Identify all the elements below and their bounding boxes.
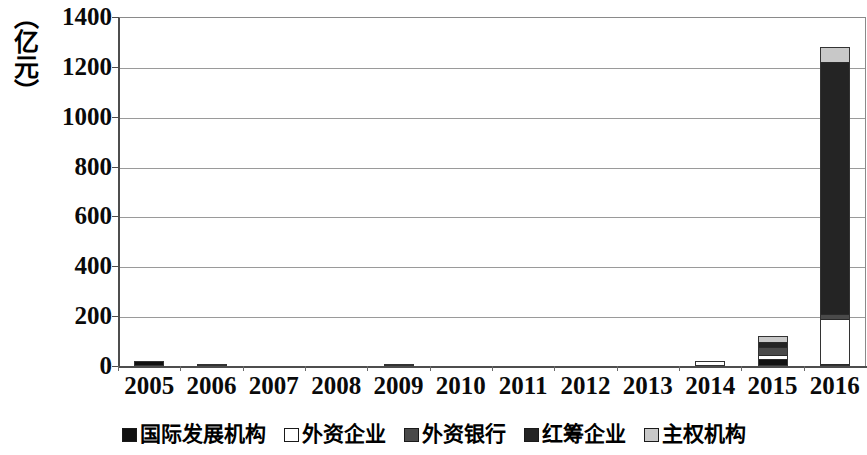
bar-group[interactable] xyxy=(384,17,414,366)
x-axis-tick-label: 2008 xyxy=(305,372,367,401)
legend-swatch-icon xyxy=(644,428,659,442)
x-axis-tick-mark xyxy=(492,366,493,371)
legend-label: 国际发展机构 xyxy=(140,424,266,445)
chart-legend: 国际发展机构外资企业外资银行红筹企业主权机构 xyxy=(0,424,867,445)
legend-swatch-icon xyxy=(284,428,299,442)
y-axis-tick-mark xyxy=(112,216,119,217)
x-axis-tick-label: 2005 xyxy=(118,372,180,401)
y-axis-title: （亿元） xyxy=(2,4,36,104)
y-axis-tick-label: 200 xyxy=(42,303,112,328)
y-axis-tick-label: 1200 xyxy=(42,54,112,79)
x-axis-tick-mark xyxy=(367,366,368,371)
x-axis-tick-mark xyxy=(554,366,555,371)
x-axis-tick-label: 2010 xyxy=(430,372,492,401)
x-axis-tick-label: 2009 xyxy=(367,372,429,401)
y-axis-tick-mark xyxy=(112,17,119,18)
y-axis-tick-label: 600 xyxy=(42,203,112,228)
x-axis-tick-mark xyxy=(430,366,431,371)
x-axis-tick-mark xyxy=(118,366,119,371)
y-axis-tick-labels: 1400120010008006004002000 xyxy=(38,0,112,455)
legend-item[interactable]: 外资银行 xyxy=(404,424,506,445)
x-axis-tick-mark xyxy=(305,366,306,371)
legend-label: 外资银行 xyxy=(422,424,506,445)
bar-stack xyxy=(758,336,788,366)
bar-group[interactable] xyxy=(695,17,725,366)
legend-swatch-icon xyxy=(404,428,419,442)
y-axis-tick-mark xyxy=(112,266,119,267)
y-axis-tick-mark xyxy=(112,316,119,317)
x-axis-tick-label: 2006 xyxy=(180,372,242,401)
y-axis-tick-label: 1400 xyxy=(42,4,112,29)
legend-swatch-icon xyxy=(122,428,137,442)
x-axis-tick-mark xyxy=(180,366,181,371)
y-axis-tick-mark xyxy=(112,67,119,68)
y-axis-tick-mark xyxy=(112,117,119,118)
x-axis-tick-mark xyxy=(679,366,680,371)
x-axis-tick-label: 2012 xyxy=(554,372,616,401)
x-axis-tick-label: 2007 xyxy=(243,372,305,401)
legend-label: 外资企业 xyxy=(302,424,386,445)
bar-group[interactable] xyxy=(197,17,227,366)
x-axis-tick-mark xyxy=(804,366,805,371)
x-axis-tick-label: 2016 xyxy=(804,372,866,401)
bar-stack xyxy=(820,47,850,366)
stacked-bar-chart: （亿元） 1400120010008006004002000 200520062… xyxy=(0,0,867,455)
legend-item[interactable]: 国际发展机构 xyxy=(122,424,266,445)
legend-item[interactable]: 红筹企业 xyxy=(524,424,626,445)
x-axis-tick-label: 2015 xyxy=(741,372,803,401)
x-axis-tick-label: 2014 xyxy=(679,372,741,401)
x-axis-tick-label: 2011 xyxy=(492,372,554,401)
legend-label: 主权机构 xyxy=(662,424,746,445)
x-axis-tick-mark xyxy=(741,366,742,371)
x-axis-tick-mark xyxy=(617,366,618,371)
x-axis-tick-label: 2013 xyxy=(617,372,679,401)
y-axis-tick-mark xyxy=(112,167,119,168)
bar-segment[interactable] xyxy=(820,319,850,364)
bar-group[interactable] xyxy=(134,17,164,366)
y-axis-tick-label: 400 xyxy=(42,253,112,278)
legend-item[interactable]: 主权机构 xyxy=(644,424,746,445)
x-axis-tick-mark xyxy=(243,366,244,371)
bar-segment[interactable] xyxy=(820,62,850,314)
bar-segment[interactable] xyxy=(758,359,788,366)
legend-item[interactable]: 外资企业 xyxy=(284,424,386,445)
y-axis-tick-label: 800 xyxy=(42,154,112,179)
bars-layer xyxy=(118,17,866,366)
legend-label: 红筹企业 xyxy=(542,424,626,445)
bar-segment[interactable] xyxy=(758,347,788,354)
legend-swatch-icon xyxy=(524,428,539,442)
bar-segment[interactable] xyxy=(820,47,850,62)
y-axis-tick-label: 1000 xyxy=(42,104,112,129)
y-axis-tick-label: 0 xyxy=(42,353,112,378)
x-axis-tick-labels: 2005200620072008200920102011201220132014… xyxy=(118,372,866,406)
bar-group[interactable] xyxy=(758,17,788,366)
bar-group[interactable] xyxy=(820,17,850,366)
